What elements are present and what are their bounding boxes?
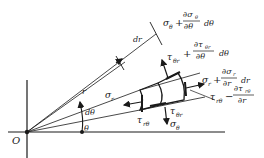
origin-label: O	[12, 135, 20, 146]
svg-text:∂σ: ∂σ	[183, 10, 193, 19]
svg-text:θr: θr	[205, 44, 211, 50]
svg-text:∂r: ∂r	[238, 96, 247, 105]
svg-text:rθ: rθ	[216, 97, 223, 104]
r-label: r	[82, 87, 87, 96]
svg-text:∂τ: ∂τ	[194, 40, 203, 49]
svg-text:θr: θr	[176, 111, 184, 118]
svg-text:θ: θ	[176, 124, 180, 131]
tau-theta-r-plus-expression: + ∂τ θr ∂θ dθ	[183, 40, 229, 61]
svg-text:dθ: dθ	[204, 19, 214, 28]
svg-text:+: +	[213, 74, 221, 85]
svg-text:+: +	[183, 48, 191, 59]
sigma-theta-plus-arrow	[162, 60, 168, 78]
tau-theta-r-top-label: τ θr	[167, 52, 181, 64]
tau-r-theta-label: τ rθ	[137, 115, 150, 127]
tau-theta-r-label: τ θr	[170, 106, 184, 118]
svg-text:dθ: dθ	[219, 49, 229, 58]
sigma-r-label: σ r	[105, 90, 115, 102]
svg-text:rθ: rθ	[143, 120, 150, 127]
svg-text:θ: θ	[195, 14, 198, 20]
dtheta-arrow	[80, 102, 81, 108]
svg-text:θ: θ	[169, 23, 173, 30]
svg-text:∂θ: ∂θ	[184, 22, 193, 31]
polar-stress-diagram: O r dr θ dθ σ r τ rθ τ θr σ θ τ θr σ θ +…	[0, 0, 264, 158]
svg-text:∂τ: ∂τ	[234, 84, 243, 93]
svg-text:∂σ: ∂σ	[222, 67, 232, 76]
sigma-theta-label: σ θ	[170, 119, 180, 131]
tau-theta-r-plus-bar	[166, 72, 180, 79]
svg-text:r: r	[111, 95, 115, 102]
svg-text:∂r: ∂r	[223, 79, 232, 88]
sigma-r-arrow	[124, 102, 141, 105]
svg-text:r: r	[208, 80, 212, 87]
sigma-theta-plus-expression: σ θ + ∂σ θ ∂θ dθ	[163, 10, 214, 31]
svg-text:r: r	[233, 71, 236, 77]
svg-text:−: −	[225, 91, 233, 102]
svg-text:rθ: rθ	[245, 88, 250, 94]
sigma-r-plus-expression: σ r + ∂σ r ∂r dr	[202, 67, 251, 88]
dr-label: dr	[133, 35, 143, 44]
tau-r-theta-minus-bar	[185, 82, 186, 96]
tau-r-theta-minus-expression: τ rθ − ∂τ rθ ∂r	[210, 84, 254, 105]
theta-label: θ	[84, 124, 89, 133]
tick-dr	[150, 22, 162, 45]
svg-text:θr: θr	[173, 57, 181, 64]
sigma-theta-arrow	[165, 107, 167, 124]
dtheta-label: dθ	[85, 108, 95, 117]
svg-text:∂θ: ∂θ	[196, 52, 205, 61]
